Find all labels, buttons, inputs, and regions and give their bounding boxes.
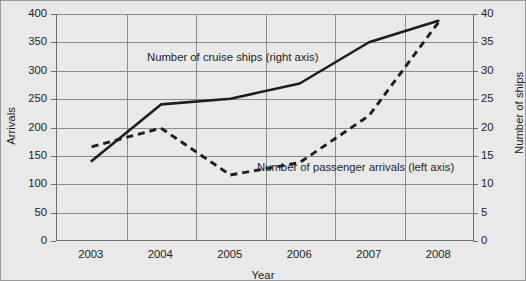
y-axis-left-tick-label: 200 xyxy=(3,122,47,133)
y-axis-left-tickmark xyxy=(51,241,56,242)
x-axis-tick-label: 2005 xyxy=(195,248,265,260)
y-axis-right-tick-label: 35 xyxy=(481,36,494,47)
x-axis-tick-label: 2004 xyxy=(126,248,196,260)
y-axis-right-tick-label: 25 xyxy=(481,93,494,104)
y-axis-right-title: Number of ships xyxy=(513,98,525,154)
y-axis-right-tick-label: 15 xyxy=(481,150,494,161)
line-passenger-arrivals xyxy=(92,22,439,175)
y-axis-left-tick-label: 300 xyxy=(3,65,47,76)
y-axis-left-tick-label: 150 xyxy=(3,150,47,161)
chart-figure: Arrivals Number of ships Year 0501001502… xyxy=(0,0,526,281)
y-axis-left-tick-label: 50 xyxy=(3,207,47,218)
y-axis-right-tick-label: 10 xyxy=(481,178,494,189)
y-axis-right-tick-label: 0 xyxy=(481,235,487,246)
x-axis-tick-label: 2008 xyxy=(404,248,474,260)
series-label-passenger-arrivals: Number of passenger arrivals (left axis) xyxy=(257,161,454,173)
y-axis-left-tick-label: 100 xyxy=(3,178,47,189)
y-axis-right-tickmark xyxy=(473,241,478,242)
y-axis-right-tick-label: 40 xyxy=(481,8,494,19)
y-axis-right-tick-label: 5 xyxy=(481,207,487,218)
y-axis-left-tick-label: 250 xyxy=(3,93,47,104)
x-axis-tick-label: 2007 xyxy=(334,248,404,260)
y-axis-right-tick-label: 30 xyxy=(481,65,494,76)
plot-area: Number of cruise ships (right axis) Numb… xyxy=(56,14,473,241)
y-axis-right-tick-label: 20 xyxy=(481,122,494,133)
y-axis-right-spine xyxy=(473,14,474,241)
series-label-cruise-ships: Number of cruise ships (right axis) xyxy=(147,51,318,63)
y-axis-left-tick-label: 400 xyxy=(3,8,47,19)
x-axis-tick-label: 2006 xyxy=(265,248,335,260)
series-lines xyxy=(57,14,473,240)
y-axis-left-tick-label: 0 xyxy=(3,235,47,246)
x-axis-title: Year xyxy=(1,269,525,281)
x-axis-tick-label: 2003 xyxy=(56,248,126,260)
y-axis-left-tick-label: 350 xyxy=(3,36,47,47)
